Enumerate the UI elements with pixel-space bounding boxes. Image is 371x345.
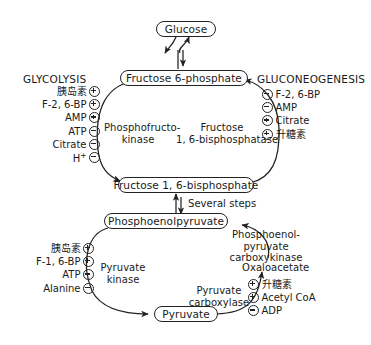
node-f6p-label: Fructose 6-phosphate [126,72,242,84]
regulators-phosphofructokinase: 胰岛素F-2, 6-BPAMPATPCitrateH+ [8,85,100,164]
regulator-name: 胰岛素 [51,242,81,255]
pepck-line-3: carboxykinase [222,252,310,264]
activation-plus-icon [262,115,273,126]
regulator-row: 升糖素 [248,278,348,291]
enzyme-fructose-1-6-bisphosphatase: Fructose 1, 6-bisphosphatase [176,122,268,145]
regulator-row: Acetyl CoA [248,291,348,304]
regulator-name: F-1, 6-BP [36,255,81,268]
regulator-name: ADP [262,304,283,317]
regulator-row: AMP [8,111,100,124]
inhibition-minus-icon [262,102,273,113]
regulator-row: F-2, 6-BP [8,98,100,111]
inhibition-minus-icon [83,269,94,280]
inhibition-minus-icon [89,139,100,150]
regulators-fructose-bisphosphatase: F-2, 6-BPAMPCitrate升糖素 [262,88,362,141]
node-pyruvate[interactable]: Pyruvate [154,306,218,322]
activation-plus-icon [89,86,100,97]
regulator-name: 胰岛素 [57,85,87,98]
fbpase-line-2: 1, 6-bisphosphatase [176,134,268,146]
regulator-name: Alanine [43,282,80,295]
inhibition-minus-icon [89,126,100,137]
activation-plus-icon [83,243,94,254]
node-pep-label: Phosphoenolpyruvate [108,215,224,227]
heading-gluconeogenesis: GLUCONEOGENESIS [257,73,365,85]
node-f16bp-label: Fructose 1, 6-bisphosphate [114,179,259,191]
node-glucose[interactable]: Glucose [156,21,216,37]
regulator-row: Alanine [8,282,94,295]
activation-plus-icon [248,279,259,290]
regulator-name: Citrate [276,114,310,127]
regulator-name: ATP [62,268,80,281]
regulators-pyruvate-kinase: 胰岛素F-1, 6-BPATPAlanine [8,242,94,295]
pepck-line-1: Phosphoenol- [222,229,310,241]
regulator-row: ATP [8,125,100,138]
activation-plus-icon [89,99,100,110]
node-pyruvate-label: Pyruvate [162,308,210,320]
node-fructose-1-6-bisphosphate[interactable]: Fructose 1, 6-bisphosphate [118,177,254,193]
node-phosphoenolpyruvate[interactable]: Phosphoenolpyruvate [104,213,228,229]
regulator-row: Citrate [262,114,362,127]
regulator-superscript: + [80,151,86,160]
metabolic-pathway-diagram: Glucose Fructose 6-phosphate Fructose 1,… [0,0,371,345]
regulator-name: F-2, 6-BP [42,98,87,111]
enzyme-pyruvate-carboxylase: Pyruvate carboxylase [186,285,252,308]
label-several-steps: Several steps [188,198,256,210]
enzyme-pyruvate-kinase: Pyruvate kinase [96,262,150,285]
regulator-name: AMP [276,101,298,114]
pfk-line-1: Phosphofructo- [104,122,172,134]
regulator-name: 升糖素 [276,128,306,141]
regulator-row: 升糖素 [262,128,362,141]
heading-glycolysis: GLYCOLYSIS [23,73,86,85]
regulator-row: AMP [262,101,362,114]
regulator-name: AMP [65,111,87,124]
node-glucose-label: Glucose [165,23,208,35]
regulator-name: H+ [73,149,87,166]
enzyme-phosphofructokinase: Phosphofructo- kinase [104,122,172,145]
regulator-row: 胰岛素 [8,242,94,255]
pc-line-2: carboxylase [186,297,252,309]
pc-line-1: Pyruvate [186,285,252,297]
activation-plus-icon [248,292,259,303]
regulator-name: 升糖素 [262,278,292,291]
regulator-name: ATP [68,125,86,138]
label-oxaloacetate: Oxaloacetate [242,262,309,274]
activation-plus-icon [89,112,100,123]
regulator-row: ATP [8,268,94,281]
node-fructose-6-phosphate[interactable]: Fructose 6-phosphate [120,70,248,86]
regulator-name: Acetyl CoA [262,291,316,304]
regulator-row: H+ [8,151,100,164]
activation-plus-icon [83,256,94,267]
pfk-line-2: kinase [104,134,172,146]
inhibition-minus-icon [83,283,94,294]
inhibition-minus-icon [248,305,259,316]
regulator-name: F-2, 6-BP [276,88,321,101]
enzyme-pep-carboxykinase: Phosphoenol- pyruvate carboxykinase [222,229,310,264]
activation-plus-icon [262,129,273,140]
fbpase-line-1: Fructose [176,122,268,134]
inhibition-minus-icon [89,152,100,163]
regulator-row: 胰岛素 [8,85,100,98]
regulator-row: F-2, 6-BP [262,88,362,101]
pk-line-1: Pyruvate [96,262,150,274]
regulators-pyruvate-carboxylase: 升糖素Acetyl CoAADP [248,278,348,318]
regulator-row: ADP [248,304,348,317]
pk-line-2: kinase [96,274,150,286]
pepck-line-2: pyruvate [222,241,310,253]
inhibition-minus-icon [262,89,273,100]
regulator-row: F-1, 6-BP [8,255,94,268]
